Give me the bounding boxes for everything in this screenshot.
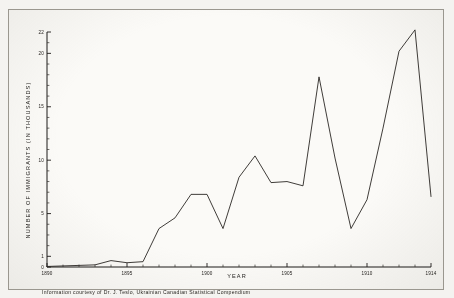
x-tick-label: 1905 — [281, 271, 292, 276]
x-tick-label: 1914 — [425, 271, 436, 276]
x-axis-title: YEAR — [227, 273, 247, 279]
x-tick-label: 1890 — [41, 271, 52, 276]
y-tick-label: 20 — [38, 51, 44, 56]
y-tick-label: 10 — [38, 158, 44, 163]
source-footnote: Information courtesy of Dr. J. Teslo, Uk… — [42, 289, 250, 295]
scanned-page: 18901895190019051910191401510152022 NUMB… — [8, 9, 444, 290]
x-tick-label: 1900 — [201, 271, 212, 276]
y-axis-title: NUMBER OF IMMIGRANTS (IN THOUSANDS) — [25, 82, 31, 239]
x-tick-label: 1910 — [361, 271, 372, 276]
screenshot-canvas: 18901895190019051910191401510152022 NUMB… — [0, 0, 454, 298]
x-tick-label: 1895 — [121, 271, 132, 276]
y-tick-label: 5 — [41, 211, 44, 216]
line-chart: 18901895190019051910191401510152022 NUMB… — [9, 10, 443, 289]
data-line-immigrants — [47, 30, 431, 267]
y-tick-label: 0 — [41, 265, 44, 270]
y-tick-label: 1 — [41, 254, 44, 259]
chart-series — [47, 30, 431, 267]
chart-axes — [47, 32, 431, 267]
y-tick-label: 22 — [38, 30, 44, 35]
y-tick-label: 15 — [38, 104, 44, 109]
